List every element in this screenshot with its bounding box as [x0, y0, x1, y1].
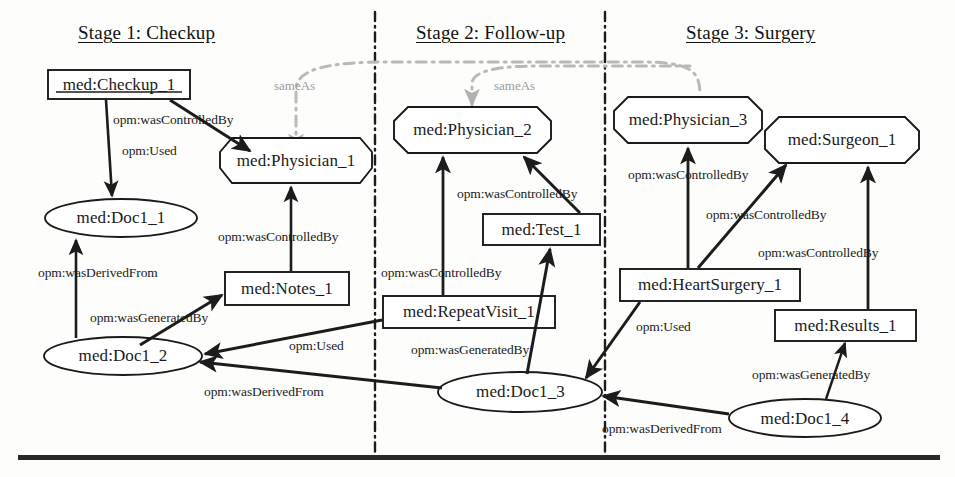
- edge-label-heartsurgery1-doc1_3: opm:Used: [636, 319, 691, 335]
- stage-title-3: Stage 3: Surgery: [686, 22, 816, 44]
- edge-checkup1-doc1_1: [106, 100, 112, 196]
- edge-label-repeatvisit1-doc1_2: opm:Used: [289, 338, 344, 354]
- node-shape-results1[interactable]: [775, 310, 916, 341]
- node-shape-surgeon1[interactable]: [765, 117, 919, 163]
- sameas-label-1: sameAs: [274, 78, 315, 94]
- node-shape-physician2[interactable]: [394, 107, 551, 153]
- edge-label-results1-surgeon1: opm:wasControlledBy: [758, 245, 878, 261]
- node-shape-checkup1[interactable]: [48, 70, 190, 99]
- edge-test1-physician2: [524, 157, 580, 213]
- diagram-vector-layer: [0, 0, 955, 477]
- edge-label-repeatvisit1-physician2: opm:wasControlledBy: [381, 265, 501, 281]
- edge-label-heartsurgery1-surgeon1: opm:wasControlledBy: [706, 207, 826, 223]
- edge-doc1_4-doc1_3: [603, 396, 729, 414]
- edge-label-heartsurgery1-physician3: opm:wasControlledBy: [628, 167, 748, 183]
- node-shape-test1[interactable]: [483, 214, 600, 245]
- edge-label-doc1_3-doc1_2: opm:wasDerivedFrom: [204, 384, 324, 400]
- node-shape-doc1_2[interactable]: [44, 337, 202, 375]
- node-shape-notes1[interactable]: [225, 272, 349, 305]
- edge-label-test1-physician2: opm:wasControlledBy: [457, 186, 577, 202]
- node-shape-doc1_3[interactable]: [438, 372, 602, 412]
- provenance-diagram-canvas: Stage 1: Checkup Stage 2: Follow-up Stag…: [0, 0, 955, 477]
- edge-label-checkup1-physician1: opm:wasControlledBy: [113, 112, 233, 128]
- node-shape-physician3[interactable]: [614, 97, 762, 143]
- node-shape-heartsurgery1[interactable]: [620, 269, 800, 301]
- node-shape-doc1_4[interactable]: [729, 399, 881, 437]
- edge-label-checkup1-doc1_1: opm:Used: [122, 143, 177, 159]
- edge-label-doc1_2-notes1: opm:wasGeneratedBy: [90, 310, 208, 326]
- edge-label-doc1_4-results1: opm:wasGeneratedBy: [752, 367, 870, 383]
- edge-label-doc1_4-doc1_3: opm:wasDerivedFrom: [602, 421, 722, 437]
- edge-label-notes1-physician1: opm:wasControlledBy: [218, 229, 338, 245]
- bottom-divider-rule: [18, 455, 940, 460]
- node-shape-doc1_1[interactable]: [45, 199, 197, 237]
- stage-title-1: Stage 1: Checkup: [78, 22, 215, 44]
- edge-label-doc1_2-doc1_1: opm:wasDerivedFrom: [38, 265, 158, 281]
- sameas-label-2: sameAs: [494, 78, 535, 94]
- node-shape-repeatvisit1[interactable]: [383, 296, 555, 328]
- edge-label-doc1_3-test1: opm:wasGeneratedBy: [411, 342, 529, 358]
- edge-heartsurgery1-doc1_3: [586, 302, 640, 378]
- stage-title-2: Stage 2: Follow-up: [416, 22, 565, 44]
